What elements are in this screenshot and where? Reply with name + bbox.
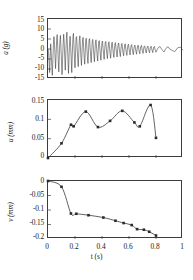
ytick-a-5: 5 [14, 34, 44, 43]
plot-frame-acceleration [47, 18, 182, 78]
ytick-a-0: 0 [14, 44, 44, 53]
ytick-a-15: 15 [14, 15, 44, 24]
panel-displacement: u (mm) 0.15 0.1 0.05 0 [0, 92, 193, 178]
ytick-v-m01: -0.1 [8, 204, 44, 213]
acceleration-trace-svg [48, 19, 183, 79]
ytick-a-m15: -15 [14, 73, 44, 82]
ytick-v-0: 0 [8, 176, 44, 185]
ytick-v-m02: -0.2 [8, 232, 44, 241]
displacement-curve-svg [48, 100, 183, 158]
xtick-08: 0.8 [145, 242, 165, 251]
ytick-u-01: 0.1 [8, 114, 44, 123]
plot-frame-displacement [47, 99, 182, 157]
panel-acceleration: a (g) 15 10 5 0 -5 -10 -15 [0, 0, 193, 92]
xtick-0: 0 [37, 242, 57, 251]
ytick-a-10: 10 [14, 24, 44, 33]
axis-label-acceleration: a (g) [2, 31, 10, 65]
xtick-04: 0.4 [91, 242, 111, 251]
seismic-response-figure: a (g) 15 10 5 0 -5 -10 -15 u (mm) 0.15 0… [0, 0, 193, 280]
plot-frame-settlement [47, 180, 182, 238]
xtick-1: 1 [172, 242, 192, 251]
axis-label-time: t (s) [0, 252, 193, 261]
ytick-v-m015: -0.15 [8, 218, 44, 227]
settlement-curve-svg [48, 181, 183, 239]
xtick-06: 0.6 [118, 242, 138, 251]
ytick-v-m005: -0.05 [8, 190, 44, 199]
ytick-u-0: 0 [8, 151, 44, 160]
ytick-a-m5: -5 [14, 53, 44, 62]
ytick-a-m10: -10 [14, 63, 44, 72]
ytick-u-015: 0.15 [8, 96, 44, 105]
ytick-u-005: 0.05 [8, 133, 44, 142]
panel-settlement: v (mm) 0 -0.05 -0.1 -0.15 -0.2 0 0.2 0.4… [0, 178, 193, 280]
xtick-02: 0.2 [64, 242, 84, 251]
